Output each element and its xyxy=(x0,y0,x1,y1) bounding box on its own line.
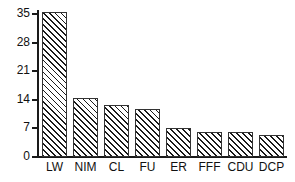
y-axis-tick xyxy=(32,13,38,15)
bar xyxy=(197,132,222,157)
y-axis-tick-label: 14 xyxy=(0,93,30,105)
bar xyxy=(259,135,284,157)
x-axis-tick-label: ER xyxy=(163,160,194,174)
x-axis-tick-label: NIM xyxy=(70,160,101,174)
y-axis-tick-label: 7 xyxy=(0,121,30,133)
x-axis-tick-label: DCP xyxy=(256,160,287,174)
bar xyxy=(104,105,129,157)
x-axis-tick-label: LW xyxy=(39,160,70,174)
y-axis-tick xyxy=(32,156,38,158)
y-axis-tick-label: 0 xyxy=(0,150,30,162)
y-axis-tick-label: 28 xyxy=(0,36,30,48)
y-axis-tick xyxy=(32,127,38,129)
x-axis-tick-labels: LWNIMCLFUERFFFCDUDCP xyxy=(39,160,287,180)
y-axis-tick xyxy=(32,70,38,72)
y-axis-tick-label: 35 xyxy=(0,7,30,19)
bar xyxy=(73,98,98,157)
y-axis-tick xyxy=(32,99,38,101)
y-axis-tick-label: 21 xyxy=(0,64,30,76)
bar xyxy=(228,132,253,157)
x-axis-tick-label: CDU xyxy=(225,160,256,174)
x-axis-tick-label: CL xyxy=(101,160,132,174)
bar xyxy=(166,128,191,157)
y-axis-tick xyxy=(32,42,38,44)
bar-chart: 0714212835 LWNIMCLFUERFFFCDUDCP xyxy=(0,0,295,182)
x-axis-tick-label: FFF xyxy=(194,160,225,174)
x-axis-tick-label: FU xyxy=(132,160,163,174)
bar xyxy=(42,12,67,157)
bar-series xyxy=(39,10,287,157)
bar xyxy=(135,109,160,157)
